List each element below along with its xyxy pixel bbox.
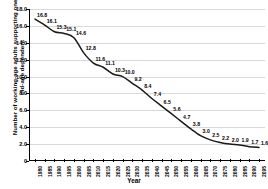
data-point-label: 16.1 (47, 18, 57, 24)
x-tick-mark (191, 159, 192, 162)
x-tick-label: 2065 (203, 166, 209, 177)
x-tick-mark (54, 159, 55, 162)
data-point-label: 11.6 (95, 56, 105, 62)
y-tick-label: 16.0 (3, 23, 27, 29)
x-tick-label: 2005 (86, 166, 92, 177)
x-tick-mark (45, 159, 46, 162)
data-point-label: 1.9 (242, 137, 249, 143)
x-tick-label: 1985 (47, 166, 53, 177)
x-tick-mark (240, 159, 241, 162)
x-tick-label: 2070 (212, 166, 218, 177)
y-tick-label: 18.0 (3, 6, 27, 12)
data-point-label: 1.7 (251, 139, 258, 145)
data-point-label: 8.4 (144, 83, 151, 89)
data-point-label: 5.6 (173, 106, 180, 112)
x-tick-mark (259, 159, 260, 162)
x-tick-mark (113, 159, 114, 162)
chart-container: Number of working-age adults supporting … (0, 0, 268, 189)
data-point-label: 15.3 (56, 24, 66, 30)
x-tick-mark (171, 159, 172, 162)
data-point-label: 4.7 (183, 114, 190, 120)
data-point-label: 9.2 (134, 76, 141, 82)
x-tick-mark (64, 159, 65, 162)
x-tick-label: 2020 (115, 166, 121, 177)
x-tick-mark (210, 159, 211, 162)
x-tick-label: 2035 (144, 166, 150, 177)
y-tick-label: 6.0 (3, 107, 27, 113)
x-tick-mark (162, 159, 163, 162)
x-tick-mark (142, 159, 143, 162)
data-point-label: 10.3 (115, 67, 125, 73)
y-tick-label: 8.0 (3, 90, 27, 96)
x-tick-mark (74, 159, 75, 162)
data-point-label: 11.1 (105, 60, 115, 66)
x-tick-mark (181, 159, 182, 162)
x-tick-label: 2050 (173, 166, 179, 177)
x-tick-label: 2060 (193, 166, 199, 177)
x-axis-title: Year (0, 177, 268, 184)
x-tick-label: 2045 (164, 166, 170, 177)
x-tick-mark (230, 159, 231, 162)
x-tick-label: 2000 (76, 166, 82, 177)
x-tick-label: 1980 (37, 166, 43, 177)
y-tick-label: 12.0 (3, 57, 27, 63)
y-tick-label: 0 (3, 158, 27, 164)
x-tick-mark (201, 159, 202, 162)
data-point-label: 2.0 (232, 137, 239, 143)
y-tick-label: 2.0 (3, 141, 27, 147)
x-tick-mark (84, 159, 85, 162)
data-point-label: 14.6 (76, 30, 86, 36)
x-tick-label: 2075 (222, 166, 228, 177)
y-tick-label: 10.0 (3, 74, 27, 80)
x-tick-label: 2095 (261, 166, 267, 177)
data-point-label: 3.0 (203, 128, 210, 134)
x-tick-label: 2080 (232, 166, 238, 177)
data-point-label: 16.8 (37, 12, 47, 18)
data-point-label: 3.8 (193, 121, 200, 127)
x-tick-label: 2040 (154, 166, 160, 177)
x-tick-mark (152, 159, 153, 162)
x-tick-mark (35, 159, 36, 162)
x-axis-tick-labels: 1980198519901995200020052010201520202025… (29, 162, 265, 178)
data-point-label: 15.1 (66, 26, 76, 32)
y-tick-label: 14.0 (3, 40, 27, 46)
x-tick-mark (123, 159, 124, 162)
data-point-label: 12.8 (86, 45, 96, 51)
data-point-label: 1.6 (261, 140, 268, 146)
x-tick-label: 2085 (242, 166, 248, 177)
x-tick-label: 2025 (125, 166, 131, 177)
data-point-label: 10.0 (125, 69, 135, 75)
x-tick-mark (220, 159, 221, 162)
x-tick-mark (132, 159, 133, 162)
data-point-label: 2.2 (222, 135, 229, 141)
y-tick-label: 4.0 (3, 124, 27, 130)
x-tick-label: 2055 (183, 166, 189, 177)
x-tick-label: 1990 (56, 166, 62, 177)
x-tick-label: 1995 (66, 166, 72, 177)
data-point-label: 7.4 (154, 91, 161, 97)
x-tick-label: 2090 (251, 166, 257, 177)
x-tick-label: 2010 (95, 166, 101, 177)
x-tick-mark (249, 159, 250, 162)
x-tick-label: 2030 (134, 166, 140, 177)
data-point-label: 6.5 (164, 99, 171, 105)
data-point-label: 2.5 (212, 132, 219, 138)
x-tick-mark (93, 159, 94, 162)
x-tick-label: 2015 (105, 166, 111, 177)
x-tick-mark (103, 159, 104, 162)
